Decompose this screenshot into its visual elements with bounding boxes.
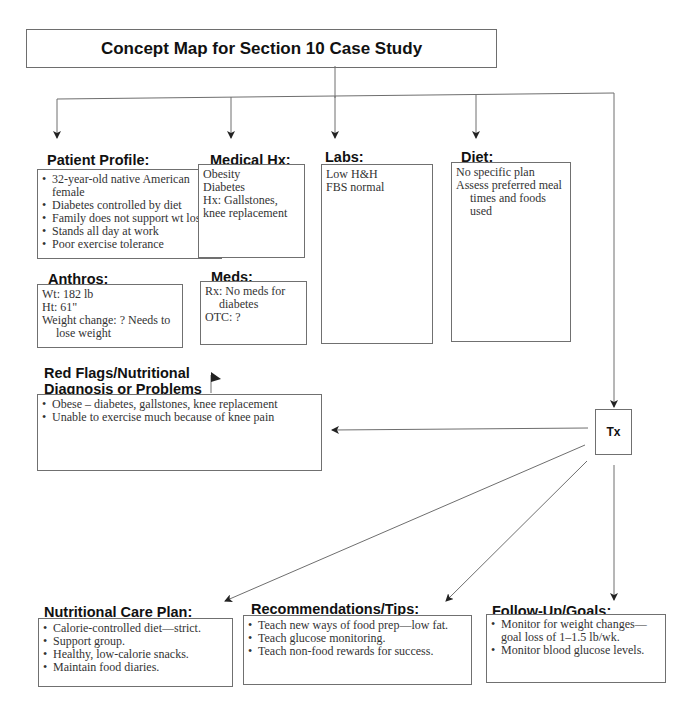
flag-icon <box>211 372 221 382</box>
anthros-box: Wt: 182 lb Ht: 61" Weight change: ? Need… <box>37 284 183 348</box>
list-item: Poor exercise tolerance <box>42 238 217 251</box>
tx-node: Tx <box>595 409 632 455</box>
list-item: Monitor for weight changes—goal loss of … <box>491 618 661 644</box>
medical-hx-box: Obesity Diabetes Hx: Gallstones, knee re… <box>198 164 305 258</box>
red-flags-heading-line1: Red Flags/Nutritional <box>44 365 190 382</box>
follow-up-box: Monitor for weight changes—goal loss of … <box>486 614 666 683</box>
list-item: Teach non-food rewards for success. <box>248 645 467 658</box>
list-item: Maintain food diaries. <box>43 661 228 674</box>
concept-map-title: Concept Map for Section 10 Case Study <box>26 29 497 68</box>
medical-hx-line: Hx: Gallstones, knee replacement <box>203 194 300 220</box>
red-flags-box: Obese – diabetes, gallstones, knee repla… <box>37 394 322 471</box>
list-item: 32-year-old native American female <box>42 173 217 199</box>
diet-box: No specific plan Assess preferred meal t… <box>451 162 571 342</box>
nutritional-care-plan-box: Calorie-controlled diet—strict. Support … <box>38 618 233 687</box>
diet-line: times and foods used <box>456 192 566 218</box>
anthros-line: lose weight <box>42 327 178 340</box>
list-item: Unable to exercise much because of knee … <box>42 411 317 424</box>
patient-profile-box: 32-year-old native American female Diabe… <box>37 169 222 259</box>
labs-line: FBS normal <box>326 181 428 194</box>
list-item: Monitor blood glucose levels. <box>491 644 661 657</box>
meds-box: Rx: No meds for diabetes OTC: ? <box>200 281 307 345</box>
recommendations-box: Teach new ways of food prep—low fat. Tea… <box>243 615 472 685</box>
meds-line: OTC: ? <box>205 311 302 324</box>
labs-box: Low H&H FBS normal <box>321 164 433 344</box>
patient-profile-heading: Patient Profile: <box>47 152 149 169</box>
